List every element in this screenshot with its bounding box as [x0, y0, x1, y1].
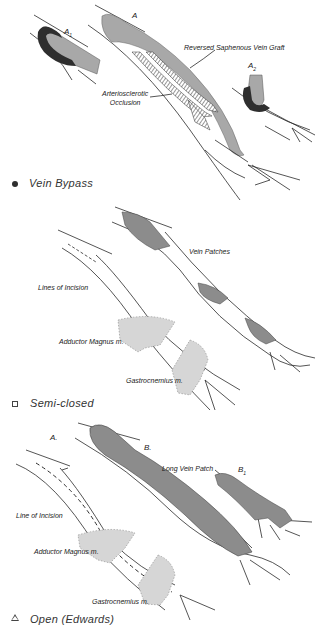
artery-branch — [252, 165, 290, 190]
label-a: A — [132, 12, 137, 20]
artery-b1-wall — [285, 530, 300, 536]
label-a2: A2 — [248, 62, 256, 72]
diagram-canvas — [0, 0, 321, 631]
artery-right-wall — [165, 232, 315, 358]
caption-open-edwards: Open (Edwards) — [30, 614, 114, 625]
label-a: A. — [50, 434, 58, 442]
artery-a-wall — [62, 468, 68, 470]
label-lines-of-incision: Lines of Incision — [38, 284, 88, 291]
leader-graft — [190, 50, 215, 68]
artery-branch — [180, 595, 215, 620]
label-gastrocnemius: Gastrocnemius m. — [126, 377, 183, 384]
vein-patch-2 — [198, 283, 228, 304]
label-vein-patches: Vein Patches — [189, 248, 230, 255]
label-gastrocnemius: Gastrocnemius m. — [92, 598, 149, 605]
label-long-vein-patch: Long Vein Patch — [162, 465, 213, 472]
panel-open-edwards — [16, 423, 312, 620]
panel-semi-closed — [58, 207, 315, 410]
filled-circle-marker-icon — [12, 181, 18, 187]
caption-semi-closed: Semi-closed — [30, 398, 94, 409]
incision-line — [68, 244, 96, 262]
occluded-segment — [146, 52, 218, 112]
artery-a2-branch — [265, 126, 290, 140]
open-square-marker-icon — [12, 401, 18, 407]
vein-patch-3 — [245, 318, 276, 344]
artery-a-wall — [26, 450, 70, 466]
label-a1: A1 — [64, 28, 72, 38]
artery-branch — [270, 352, 300, 372]
panel-vein-bypass — [30, 5, 315, 200]
label-adductor-magnus: Adductor Magnus m. — [34, 548, 99, 555]
label-graft: Reversed Saphenous Vein Graft — [184, 44, 285, 51]
gastrocnemius-muscle — [172, 340, 208, 395]
caption-vein-bypass: Vein Bypass — [29, 178, 93, 189]
adductor-magnus-muscle — [78, 529, 135, 563]
label-adductor-magnus: Adductor Magnus m. — [59, 338, 124, 345]
label-b: B. — [144, 444, 152, 452]
artery-a2-branch — [292, 128, 312, 142]
label-b1: B1 — [238, 466, 246, 476]
artery-branch — [240, 560, 280, 585]
open-triangle-marker-icon — [11, 614, 19, 621]
leader-occlusion — [150, 94, 172, 97]
label-occlusion: Arteriosclerotic Occlusion — [102, 89, 148, 107]
label-line-of-incision: Line of Incision — [16, 512, 63, 519]
adductor-magnus-muscle — [118, 316, 175, 352]
vein-patch-1 — [122, 212, 170, 250]
